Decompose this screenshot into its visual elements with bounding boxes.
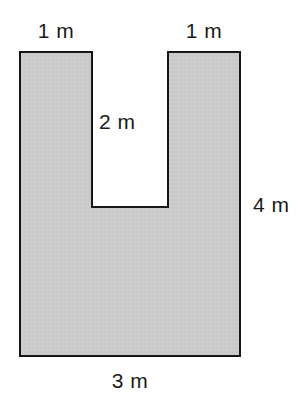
dimension-label-notch-depth: 2 m — [99, 111, 136, 132]
geometry-figure-canvas: 1 m 1 m 2 m 4 m 3 m — [0, 0, 302, 403]
dimension-label-top-left: 1 m — [20, 20, 92, 41]
dimension-label-top-right: 1 m — [168, 20, 240, 41]
dimension-label-bottom-width: 3 m — [20, 370, 240, 391]
dimension-label-right-height: 4 m — [253, 194, 290, 215]
